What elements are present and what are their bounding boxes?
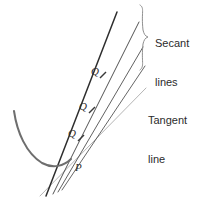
secant-line-3 [58,47,143,192]
tangent-line [40,88,146,196]
secant-line-1 [46,12,117,196]
q3-marker [78,135,84,141]
calculus-secant-tangent-figure: Q Q Q P Secant lines Tangent line [0,0,198,200]
figure-canvas [0,0,198,200]
function-curve [14,111,71,166]
secant-brace [140,5,148,70]
q1-marker [100,72,106,78]
secant-line-4 [62,66,145,190]
